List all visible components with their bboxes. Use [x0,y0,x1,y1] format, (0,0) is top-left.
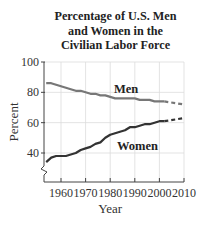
y-tick-label: 60 [27,116,39,130]
x-tick-label: 1960 [49,186,73,200]
y-tick-label: 40 [27,146,39,160]
x-tick-label: 1970 [74,186,98,200]
x-tick-label: 1990 [123,186,147,200]
y-axis-label: Percent [6,102,21,141]
series-label-men: Men [114,82,138,96]
x-tick-label: 2010 [172,186,196,200]
projection-line-women [164,118,184,121]
x-tick-label: 1980 [98,186,122,200]
y-tick-label: 100 [21,55,39,69]
x-tick-label: 2000 [147,186,171,200]
projection-line-men [164,101,184,104]
line-chart: 406080100196019701980199020002010Percent… [0,0,201,225]
axis-break-icon [41,166,47,182]
x-axis-label: Year [98,201,123,216]
series-label-women: Women [117,139,158,153]
y-tick-label: 80 [27,85,39,99]
